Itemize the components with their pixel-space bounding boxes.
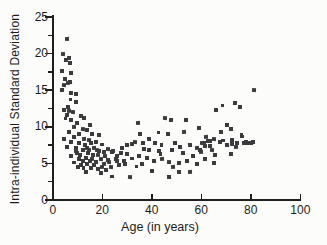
data-point xyxy=(138,132,142,136)
data-point xyxy=(74,92,78,96)
data-point xyxy=(184,118,188,122)
data-point xyxy=(251,140,255,144)
data-point xyxy=(77,132,81,136)
data-point xyxy=(130,142,134,146)
data-point xyxy=(160,156,164,160)
data-point xyxy=(224,123,228,127)
data-point xyxy=(206,139,210,143)
data-point xyxy=(212,137,216,141)
x-tick-label: 40 xyxy=(135,204,169,217)
y-axis-title: Intra-individual Standard Deviation xyxy=(8,9,24,209)
data-point xyxy=(191,153,195,157)
data-point xyxy=(145,156,149,160)
data-point xyxy=(76,164,80,168)
data-point xyxy=(82,137,86,141)
data-point xyxy=(81,148,85,152)
data-point xyxy=(61,52,65,56)
data-point xyxy=(69,91,73,95)
data-point xyxy=(75,121,79,125)
data-point xyxy=(69,71,73,75)
data-point xyxy=(60,88,64,92)
data-point xyxy=(225,143,229,147)
data-point xyxy=(72,125,76,129)
data-point xyxy=(110,175,114,179)
data-point xyxy=(107,160,111,164)
data-point xyxy=(141,141,145,145)
x-tick-label: 100 xyxy=(283,204,317,217)
data-point xyxy=(146,148,150,152)
data-point xyxy=(111,149,115,153)
data-point xyxy=(115,159,119,163)
data-point xyxy=(203,156,207,160)
x-tick-label: 80 xyxy=(234,204,268,217)
data-point xyxy=(182,130,186,134)
data-point xyxy=(166,132,170,136)
data-point xyxy=(66,81,70,85)
data-point xyxy=(230,142,234,146)
data-point xyxy=(95,148,99,152)
data-point xyxy=(62,137,66,141)
data-point xyxy=(96,167,100,171)
data-point xyxy=(130,157,134,161)
data-point xyxy=(188,170,192,174)
data-point xyxy=(185,159,189,163)
data-point xyxy=(84,170,88,174)
data-point xyxy=(109,165,113,169)
x-axis-title: Age (in years) xyxy=(95,220,225,234)
data-point xyxy=(94,160,98,164)
data-point xyxy=(136,120,140,124)
data-point xyxy=(178,145,182,149)
data-point xyxy=(167,175,171,179)
data-point xyxy=(104,167,108,171)
data-point xyxy=(125,152,129,156)
data-point xyxy=(228,152,232,156)
data-point xyxy=(97,133,101,137)
data-point xyxy=(181,151,185,155)
data-point xyxy=(74,100,78,104)
data-point xyxy=(67,130,71,134)
data-point xyxy=(105,147,109,151)
y-tick-label: 20 xyxy=(28,47,48,60)
data-point xyxy=(142,147,146,151)
data-point xyxy=(176,170,180,174)
data-point xyxy=(188,143,192,147)
data-point xyxy=(119,151,123,155)
scatter-plot-figure: Intra-individual Standard Deviation Age … xyxy=(0,0,327,245)
data-point xyxy=(64,117,68,121)
data-point xyxy=(95,153,99,157)
x-tick-label: 0 xyxy=(36,204,70,217)
data-point xyxy=(99,171,103,175)
data-point xyxy=(82,116,86,120)
plot-area xyxy=(52,17,300,200)
x-tick-label: 60 xyxy=(184,204,218,217)
data-point xyxy=(69,154,73,158)
data-point xyxy=(240,133,244,137)
data-point xyxy=(166,160,170,164)
data-point xyxy=(85,128,89,132)
data-point xyxy=(89,166,93,170)
data-point xyxy=(176,161,180,165)
data-point xyxy=(90,132,94,136)
data-point xyxy=(100,143,104,147)
data-point xyxy=(86,151,90,155)
data-point xyxy=(91,153,95,157)
data-point xyxy=(146,137,150,141)
data-point xyxy=(117,163,121,167)
data-point xyxy=(135,165,139,169)
data-point xyxy=(198,150,202,154)
data-point xyxy=(88,123,92,127)
data-point xyxy=(69,98,73,102)
data-point xyxy=(244,141,248,145)
data-point xyxy=(80,126,84,130)
data-point xyxy=(137,153,141,157)
data-point xyxy=(171,165,175,169)
data-point xyxy=(251,88,255,92)
data-point xyxy=(233,101,237,105)
data-point xyxy=(123,162,127,166)
data-point xyxy=(162,116,166,120)
data-point xyxy=(102,161,106,165)
y-tick-label: 10 xyxy=(28,120,48,133)
data-point xyxy=(125,143,129,147)
data-point xyxy=(212,161,216,165)
data-point xyxy=(81,159,85,163)
